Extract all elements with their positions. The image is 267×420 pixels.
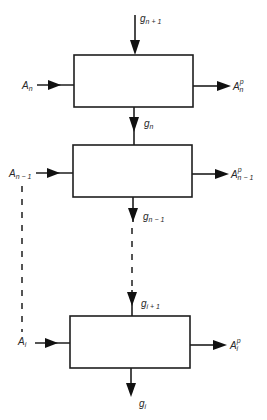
label-a-n-minus-1: An − 1	[8, 168, 32, 180]
arrow-right-icon	[217, 81, 231, 91]
stage-i: gi + 1 Ai Api gi	[17, 290, 241, 410]
label-a-n-p: Apn	[232, 78, 244, 93]
arrow-right-icon	[48, 80, 61, 90]
stage-n-minus-1: An − 1 Apn − 1 gn − 1	[8, 145, 253, 223]
arrow-right-icon	[215, 169, 229, 179]
arrow-right-icon	[45, 338, 58, 348]
arrow-right-icon	[213, 340, 227, 350]
arrow-down-icon	[129, 117, 139, 132]
arrow-down-icon	[128, 208, 138, 222]
label-g-n-plus-1: gn + 1	[140, 13, 161, 25]
arrow-right-icon	[47, 168, 60, 178]
arrow-down-icon	[130, 40, 140, 55]
label-g-n: gn	[144, 118, 154, 130]
stage-n: gn + 1 An Apn gn	[21, 13, 244, 145]
arrow-down-icon	[127, 292, 137, 306]
label-g-i-plus-1: gi + 1	[141, 298, 160, 310]
label-a-i: Ai	[17, 336, 27, 348]
label-a-n: An	[21, 80, 33, 92]
label-a-n-minus-1-p: Apn − 1	[230, 166, 253, 181]
label-g-n-minus-1: gn − 1	[143, 211, 164, 223]
label-g-i: gi	[139, 398, 147, 410]
recursive-stage-diagram: gn + 1 An Apn gn An − 1 Apn − 1 gn − 1 g…	[0, 0, 267, 420]
stage-n-box	[74, 55, 193, 107]
stage-i-box	[70, 316, 190, 368]
label-a-i-p: Api	[229, 337, 241, 352]
stage-n-minus-1-box	[73, 145, 192, 197]
arrow-down-icon	[126, 383, 136, 397]
